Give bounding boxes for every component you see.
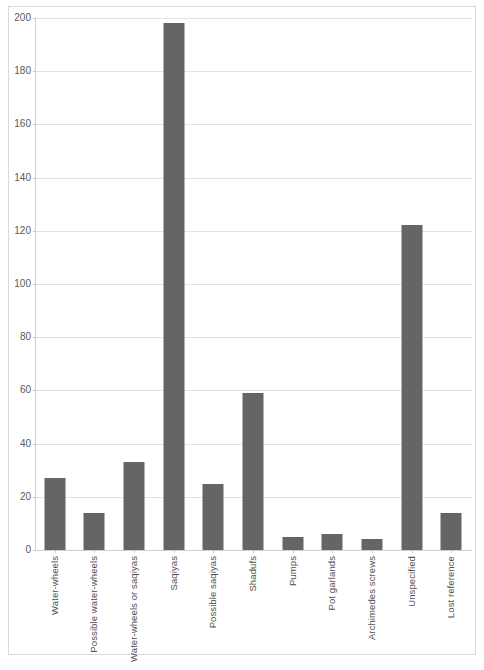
bar[interactable] <box>84 513 105 550</box>
bar[interactable] <box>242 393 263 550</box>
x-tick-mark <box>213 550 214 553</box>
bar[interactable] <box>361 539 382 550</box>
x-tick-mark <box>412 550 413 553</box>
x-label-slot: Pumps <box>273 554 313 652</box>
x-axis-labels: Water-wheelsPossible water-wheelsWater-w… <box>35 554 471 652</box>
x-axis-tick-label: Pumps <box>288 556 298 586</box>
chart-figure-frame: 020406080100120140160180200 Water-wheels… <box>8 6 476 655</box>
x-tick-mark <box>332 550 333 553</box>
bar[interactable] <box>163 23 184 550</box>
y-axis-tick-label: 0 <box>25 545 31 555</box>
bar-slot <box>273 18 313 550</box>
x-label-slot: Unspecified <box>392 554 432 652</box>
bar-slot <box>233 18 273 550</box>
y-axis-tick-label: 40 <box>20 439 31 449</box>
x-label-slot: Lost reference <box>431 554 471 652</box>
bar[interactable] <box>124 462 145 550</box>
x-label-slot: Pot garlands <box>312 554 352 652</box>
x-tick-mark <box>55 550 56 553</box>
bar-slot <box>154 18 194 550</box>
bar-slot <box>194 18 234 550</box>
bar[interactable] <box>203 484 224 551</box>
bar-slot <box>114 18 154 550</box>
bar-slot <box>392 18 432 550</box>
bar[interactable] <box>44 478 65 550</box>
bar-chart: 020406080100120140160180200 Water-wheels… <box>9 7 475 654</box>
x-axis-tick-label: Water-wheels or saqiyas <box>129 556 139 662</box>
x-label-slot: Possible saqiyas <box>194 554 234 652</box>
bars-container <box>35 18 471 550</box>
y-axis-tick-label: 200 <box>14 13 31 23</box>
x-tick-mark <box>174 550 175 553</box>
x-label-slot: Water-wheels <box>35 554 75 652</box>
x-tick-mark <box>372 550 373 553</box>
bar[interactable] <box>441 513 462 550</box>
y-axis-tick-label: 120 <box>14 226 31 236</box>
x-axis-tick-label: Shadufs <box>248 556 258 592</box>
x-tick-mark <box>451 550 452 553</box>
x-label-slot: Shadufs <box>233 554 273 652</box>
y-axis-tick-label: 60 <box>20 385 31 395</box>
y-gridline <box>36 550 472 551</box>
x-label-slot: Saqiyas <box>154 554 194 652</box>
y-tick-mark <box>33 550 36 551</box>
bar-slot <box>431 18 471 550</box>
x-axis-tick-label: Archimedes screws <box>367 556 377 640</box>
y-axis-tick-label: 180 <box>14 66 31 76</box>
x-label-slot: Archimedes screws <box>352 554 392 652</box>
x-axis-tick-label: Possible saqiyas <box>209 556 219 628</box>
x-axis-tick-label: Possible water-wheels <box>90 556 100 653</box>
x-tick-mark <box>134 550 135 553</box>
y-axis-tick-label: 160 <box>14 119 31 129</box>
bar[interactable] <box>282 537 303 550</box>
x-axis-tick-label: Water-wheels <box>50 556 60 615</box>
bar-slot <box>75 18 115 550</box>
x-tick-mark <box>94 550 95 553</box>
x-axis-tick-label: Pot garlands <box>328 556 338 611</box>
bar[interactable] <box>322 534 343 550</box>
y-axis-tick-label: 80 <box>20 332 31 342</box>
bar-slot <box>352 18 392 550</box>
x-label-slot: Water-wheels or saqiyas <box>114 554 154 652</box>
bar-slot <box>312 18 352 550</box>
y-axis-tick-label: 20 <box>20 492 31 502</box>
bar-slot <box>35 18 75 550</box>
x-tick-mark <box>253 550 254 553</box>
y-axis-tick-label: 140 <box>14 173 31 183</box>
y-axis-tick-label: 100 <box>14 279 31 289</box>
x-axis-tick-label: Unspecified <box>407 556 417 607</box>
x-label-slot: Possible water-wheels <box>75 554 115 652</box>
x-axis-tick-label: Saqiyas <box>169 556 179 591</box>
bar[interactable] <box>401 225 422 550</box>
x-tick-mark <box>293 550 294 553</box>
x-axis-tick-label: Lost reference <box>446 556 456 618</box>
